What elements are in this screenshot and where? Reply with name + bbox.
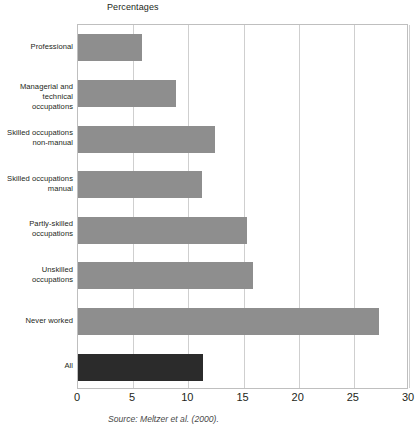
category-label-line: Never worked bbox=[0, 316, 73, 326]
category-label: All bbox=[0, 361, 73, 371]
category-label-line: technical occupations bbox=[0, 92, 73, 112]
bar-row bbox=[78, 344, 409, 390]
bar-row bbox=[78, 116, 409, 162]
category-label: Managerial andtechnical occupations bbox=[0, 82, 73, 112]
x-tick-label-10: 10 bbox=[181, 391, 193, 403]
category-axis-labels: ProfessionalManagerial andtechnical occu… bbox=[0, 24, 73, 389]
category-label: Unskilledoccupations bbox=[0, 265, 73, 285]
bar[interactable] bbox=[78, 80, 176, 107]
category-label-line: Partly-skilled bbox=[0, 219, 73, 229]
bar[interactable] bbox=[78, 308, 379, 335]
x-tick-label-25: 25 bbox=[347, 391, 359, 403]
bar-row bbox=[78, 162, 409, 208]
gridline-30 bbox=[409, 25, 410, 388]
chart-title: Percentages bbox=[107, 2, 159, 12]
category-label: Skilled occupationsmanual bbox=[0, 174, 73, 194]
bars-group bbox=[78, 25, 409, 390]
x-axis-tick-labels: 051015202530 bbox=[77, 391, 408, 409]
category-label: Partly-skilledoccupations bbox=[0, 219, 73, 239]
category-label-line: non-manual bbox=[0, 138, 73, 148]
source-note: Source: Meltzer et al. (2000). bbox=[108, 414, 219, 424]
x-tick-label-0: 0 bbox=[74, 391, 80, 403]
category-label-line: occupations bbox=[0, 229, 73, 239]
bar[interactable] bbox=[78, 171, 202, 198]
bar-row bbox=[78, 208, 409, 254]
x-tick-label-30: 30 bbox=[402, 391, 414, 403]
bar-row bbox=[78, 71, 409, 117]
category-label: Never worked bbox=[0, 316, 73, 326]
plot-area bbox=[77, 24, 408, 389]
category-label-line: All bbox=[0, 361, 73, 371]
x-tick-label-15: 15 bbox=[236, 391, 248, 403]
category-label-line: Skilled occupations bbox=[0, 174, 73, 184]
bar[interactable] bbox=[78, 354, 203, 381]
x-tick-label-20: 20 bbox=[292, 391, 304, 403]
category-label-line: Professional bbox=[0, 42, 73, 52]
bar-row bbox=[78, 299, 409, 345]
category-label: Professional bbox=[0, 42, 73, 52]
category-label-line: manual bbox=[0, 184, 73, 194]
bar[interactable] bbox=[78, 217, 247, 244]
bar[interactable] bbox=[78, 126, 215, 153]
category-label-line: Skilled occupations bbox=[0, 128, 73, 138]
category-label-line: Unskilled bbox=[0, 265, 73, 275]
x-tick-label-5: 5 bbox=[129, 391, 135, 403]
bar-row bbox=[78, 25, 409, 71]
bar-row bbox=[78, 253, 409, 299]
category-label-line: Managerial and bbox=[0, 82, 73, 92]
category-label-line: occupations bbox=[0, 275, 73, 285]
bar[interactable] bbox=[78, 262, 253, 289]
bar[interactable] bbox=[78, 34, 142, 61]
category-label: Skilled occupationsnon-manual bbox=[0, 128, 73, 148]
